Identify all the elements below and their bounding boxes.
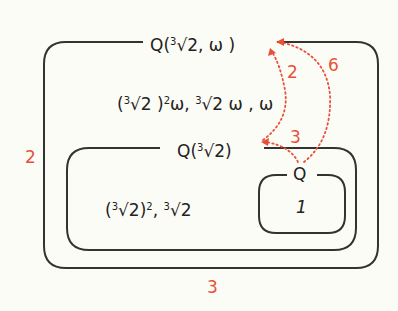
- radical: √2: [130, 94, 152, 114]
- title-text: Q(: [150, 35, 170, 55]
- base-field-elements: 1: [296, 197, 307, 217]
- middle-field-elements: (3√2)2, 3√2: [105, 197, 192, 220]
- degree-label-arrow-3: 3: [290, 127, 301, 147]
- radical: √2: [170, 200, 192, 220]
- outer-field-elements: (3√2 )2ω, 3√2 ω , ω: [117, 91, 273, 114]
- text: ,: [153, 200, 164, 220]
- degree-label-side: 2: [25, 147, 36, 167]
- title-text: ): [225, 141, 232, 161]
- arrowhead-icon: [268, 48, 276, 56]
- radical: √2: [176, 35, 198, 55]
- text: ω,: [170, 94, 195, 114]
- text: (: [117, 94, 124, 114]
- text: ): [152, 94, 164, 114]
- degree-label-bottom: 3: [207, 277, 218, 297]
- arrowhead-icon: [276, 38, 284, 46]
- degree-label-arrow-6: 6: [328, 55, 339, 75]
- title-text: Q(: [177, 141, 197, 161]
- base-field-title: Q: [293, 164, 306, 184]
- title-text: , ω ): [198, 35, 235, 55]
- middle-field-title: Q(3√2): [177, 138, 232, 161]
- radical: √2: [203, 141, 225, 161]
- degree-label-arrow-2: 2: [287, 62, 298, 82]
- radical: √2: [118, 200, 140, 220]
- text: (: [105, 200, 112, 220]
- radical: √2: [202, 94, 224, 114]
- text: ω , ω: [223, 94, 273, 114]
- outer-field-title: Q(3√2, ω ): [150, 32, 235, 55]
- arrow-base-to-outer: [280, 42, 330, 162]
